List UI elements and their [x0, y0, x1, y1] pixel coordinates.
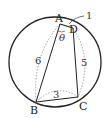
point-label-a: A — [54, 12, 64, 25]
length-label-ab: 6 — [35, 55, 41, 66]
length-label-bc: 3 — [53, 89, 59, 100]
point-label-c: C — [79, 100, 87, 113]
length-label-dc: 5 — [81, 57, 87, 68]
segment-dc — [73, 28, 78, 97]
point-label-d: D — [69, 23, 78, 36]
inscribed-quadrilateral-diagram: A D B C 1 6 5 3 θ — [0, 0, 105, 118]
point-label-b: B — [30, 104, 38, 117]
angle-label-theta: θ — [59, 32, 65, 43]
length-label-ad: 1 — [86, 10, 92, 21]
